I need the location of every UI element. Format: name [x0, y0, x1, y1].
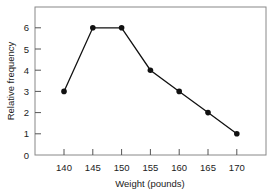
y-tick-label: 3 [24, 86, 29, 97]
y-tick-label: 0 [24, 150, 29, 161]
x-tick-label: 155 [142, 162, 158, 173]
x-axis-label: Weight (pounds) [115, 178, 185, 189]
data-point [119, 25, 125, 31]
y-tick-label: 2 [24, 107, 29, 118]
data-point [148, 67, 154, 73]
x-tick-label: 160 [171, 162, 187, 173]
frequency-polygon-chart: 0123456 140145150155160165170 Relative f… [0, 0, 273, 191]
y-tick-label: 5 [24, 44, 29, 55]
x-tick-label: 165 [200, 162, 216, 173]
y-axis-ticks: 0123456 [24, 22, 41, 160]
x-axis-ticks: 140145150155160165170 [56, 149, 245, 173]
plot-frame [35, 7, 266, 155]
data-point-markers [61, 25, 239, 137]
y-tick-label: 1 [24, 128, 29, 139]
y-axis-label: Relative frequency [5, 41, 16, 120]
x-tick-label: 145 [85, 162, 101, 173]
y-tick-label: 4 [24, 65, 29, 76]
data-point [234, 131, 240, 137]
data-point [90, 25, 96, 31]
x-tick-label: 150 [114, 162, 130, 173]
data-point [205, 110, 211, 116]
series-line [64, 28, 237, 134]
x-tick-label: 170 [229, 162, 245, 173]
x-tick-label: 140 [56, 162, 72, 173]
data-point [176, 89, 182, 95]
data-point [61, 89, 67, 95]
y-tick-label: 6 [24, 22, 29, 33]
